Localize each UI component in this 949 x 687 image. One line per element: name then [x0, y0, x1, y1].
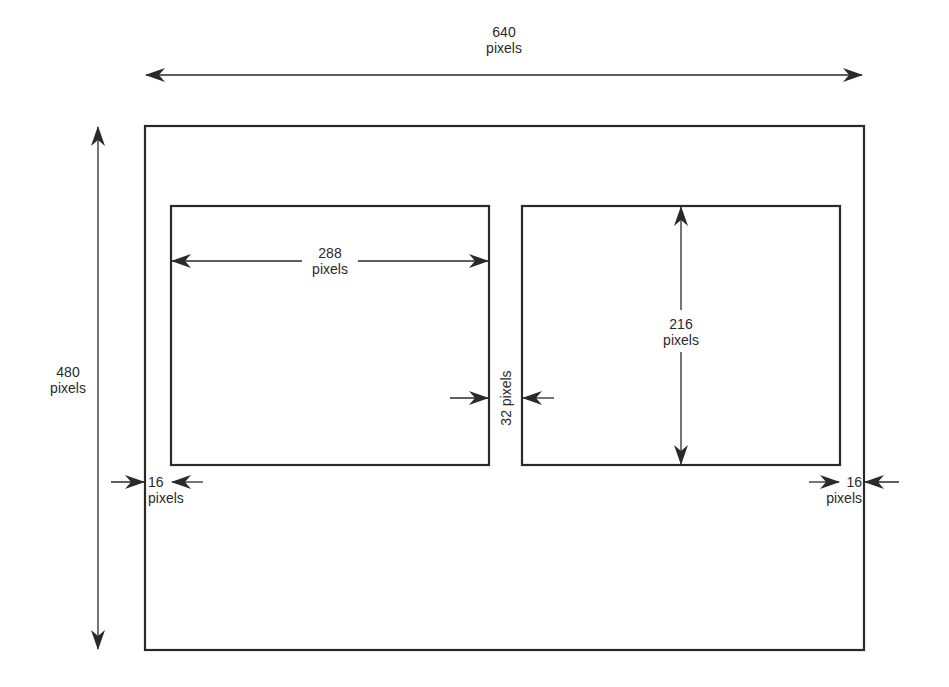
right-margin-label: 16 pixels — [818, 474, 862, 506]
left-panel-width-label: 288 pixels — [300, 245, 360, 277]
screen-height-unit: pixels — [38, 380, 98, 396]
right-margin-unit: pixels — [818, 490, 862, 506]
left-margin-unit: pixels — [148, 490, 184, 506]
right-panel-height-value: 216 — [651, 316, 711, 332]
right-margin-value: 16 — [818, 474, 862, 490]
screen-width-label: 640 pixels — [474, 24, 534, 56]
left-panel-width-unit: pixels — [300, 261, 360, 277]
left-margin-value: 16 — [148, 474, 184, 490]
left-panel-width-value: 288 — [300, 245, 360, 261]
screen-height-label: 480 pixels — [38, 364, 98, 396]
screen-height-value: 480 — [38, 364, 98, 380]
dimension-diagram — [0, 0, 949, 687]
screen-width-unit: pixels — [474, 40, 534, 56]
right-panel-height-unit: pixels — [651, 332, 711, 348]
gap-label: 32 pixels — [498, 358, 514, 438]
right-panel-height-label: 216 pixels — [651, 316, 711, 348]
screen-width-value: 640 — [474, 24, 534, 40]
left-margin-label: 16 pixels — [148, 474, 184, 506]
